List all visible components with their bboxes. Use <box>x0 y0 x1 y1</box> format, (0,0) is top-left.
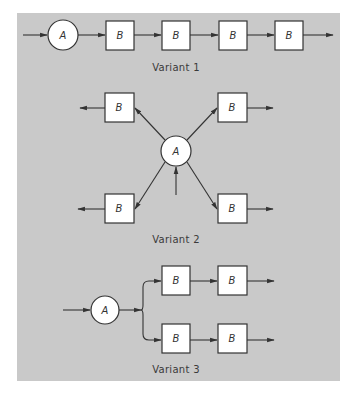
v3-branch-upper <box>141 281 161 310</box>
v3-branch-lower <box>141 310 161 340</box>
v2-arrow-a-lower-left <box>135 162 165 209</box>
v3-caption: Variant 3 <box>152 364 200 375</box>
v1-node-b3-label: B <box>230 30 237 41</box>
v2-arrow-a-upper-left <box>135 108 165 140</box>
v2-node-b-upper-right-label: B <box>229 102 236 113</box>
v2-caption: Variant 2 <box>152 234 200 245</box>
variant-2: B B B B A Variant 2 <box>78 93 273 245</box>
v2-node-b-lower-left-label: B <box>116 203 123 214</box>
v1-caption: Variant 1 <box>152 62 200 73</box>
v2-arrow-a-lower-right <box>187 162 217 209</box>
diagram-canvas: A B B B B Variant 1 B B B B A <box>0 0 353 393</box>
variant-1: A B B B B Variant 1 <box>23 20 333 73</box>
v1-node-b2-label: B <box>173 30 180 41</box>
v1-node-b4-label: B <box>286 30 293 41</box>
v1-node-b1-label: B <box>117 30 124 41</box>
v3-node-b-top-1-label: B <box>173 275 180 286</box>
v3-node-a-label: A <box>101 305 109 316</box>
variant-3: A B B B B Variant 3 <box>63 266 274 375</box>
v2-node-b-lower-right-label: B <box>229 203 236 214</box>
v2-node-b-upper-left-label: B <box>116 102 123 113</box>
v3-node-b-bottom-1-label: B <box>173 333 180 344</box>
v3-node-b-bottom-2-label: B <box>229 333 236 344</box>
v2-node-a-label: A <box>172 146 180 157</box>
v1-node-a-label: A <box>59 30 67 41</box>
v3-node-b-top-2-label: B <box>229 275 236 286</box>
v2-arrow-a-upper-right <box>187 108 217 140</box>
